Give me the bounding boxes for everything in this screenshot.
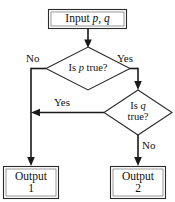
node-output2-box — [111, 167, 166, 199]
arrowhead-yes-to-decision-q — [134, 81, 142, 90]
arrowhead-no-to-output1 — [27, 157, 35, 166]
node-input-box — [49, 10, 127, 29]
node-decision-p-diamond — [46, 47, 130, 90]
flowchart-diagram: Input p, q Is p true? Is qtrue? Output1 … — [0, 0, 175, 202]
flowchart-canvas — [0, 0, 175, 202]
arrowhead-q-yes-to-trunk — [31, 109, 40, 117]
node-decision-q-diamond — [104, 90, 172, 135]
arrowhead-no-to-output2 — [134, 157, 142, 166]
node-output1-box — [4, 167, 59, 199]
